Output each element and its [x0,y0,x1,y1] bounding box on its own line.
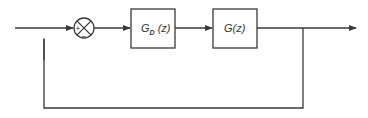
plant-arg: (z) [233,22,246,34]
controller-block: GD (z) [131,9,175,48]
block-diagram: + − GD (z) G(z) [0,0,368,118]
plant-block: G(z) [213,9,257,48]
controller-block-label: GD (z) [141,22,171,36]
summing-junction: + − [74,18,94,41]
plus-sign: + [76,24,81,33]
plant-block-label: G(z) [224,22,246,34]
minus-sign: − [82,32,87,41]
controller-arg: (z) [155,22,171,34]
